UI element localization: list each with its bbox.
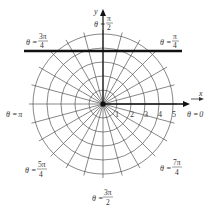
svg-text:θ =: θ =	[25, 166, 36, 175]
radial-line	[103, 85, 175, 104]
polar-grid-diagram: x y 1 2 3 4 5 θ =0 θ = π 2 θ = π 4 θ = 3…	[0, 0, 208, 211]
tick-label-3: 3	[144, 110, 148, 119]
svg-text:7π: 7π	[173, 158, 181, 167]
svg-text:3π: 3π	[104, 188, 112, 197]
radial-line	[66, 104, 103, 168]
radial-line	[51, 104, 103, 156]
svg-text:θ =: θ =	[160, 38, 171, 47]
radial-line	[66, 40, 103, 104]
tick-label-2: 2	[130, 110, 134, 119]
svg-text:θ =: θ =	[92, 194, 103, 203]
radial-line	[103, 40, 140, 104]
svg-text:5π: 5π	[38, 160, 46, 169]
y-axis-arrowhead-icon	[100, 9, 106, 16]
radial-line	[39, 67, 103, 104]
svg-text:π: π	[173, 32, 177, 41]
svg-text:θ =: θ =	[160, 164, 171, 173]
svg-text:2: 2	[107, 23, 111, 32]
svg-text:θ =: θ =	[94, 20, 105, 29]
y-axis-label: y	[93, 7, 98, 16]
radial-line	[32, 85, 104, 104]
angle-label-3pi-over-4: θ = 3π 4	[26, 32, 48, 50]
svg-text:π: π	[107, 14, 111, 23]
angle-label-0: θ =0	[187, 110, 203, 119]
radial-line	[103, 104, 122, 176]
radial-line	[103, 33, 122, 105]
svg-text:θ =: θ =	[26, 38, 37, 47]
x-axis-arrowhead-icon	[183, 101, 190, 107]
angle-label-7pi-over-4: θ = 7π 4	[160, 158, 182, 177]
svg-text:4: 4	[173, 41, 177, 50]
radial-line	[84, 33, 103, 105]
radial-line	[103, 104, 175, 123]
angle-label-pi-over-4: θ = π 4	[160, 32, 179, 50]
radial-line	[103, 52, 155, 104]
radial-line	[51, 52, 103, 104]
svg-text:2: 2	[106, 198, 110, 207]
x-axis-label: x	[198, 89, 203, 98]
radial-line	[103, 67, 167, 104]
origin-point	[100, 101, 105, 106]
radial-line	[103, 104, 140, 168]
svg-text:4: 4	[39, 170, 43, 179]
radial-line	[39, 104, 103, 141]
radial-line	[84, 104, 103, 176]
angle-label-5pi-over-4: θ = 5π 4	[25, 160, 47, 179]
tick-label-4: 4	[158, 110, 162, 119]
angle-label-pi: θ =π	[6, 110, 23, 119]
svg-text:3π: 3π	[39, 32, 47, 41]
tick-label-5: 5	[172, 110, 176, 119]
svg-text:4: 4	[175, 168, 179, 177]
radial-line	[32, 104, 104, 123]
tick-label-1: 1	[115, 110, 119, 119]
svg-text:4: 4	[40, 41, 44, 50]
angle-label-3pi-over-2: θ = 3π 2	[92, 188, 113, 207]
